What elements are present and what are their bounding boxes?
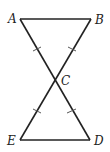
triangle-diagram: A B C E D — [0, 0, 110, 152]
label-b: B — [94, 13, 104, 27]
label-d: D — [93, 134, 104, 148]
label-e: E — [6, 134, 16, 148]
label-c: C — [61, 74, 70, 88]
label-a: A — [7, 12, 17, 26]
